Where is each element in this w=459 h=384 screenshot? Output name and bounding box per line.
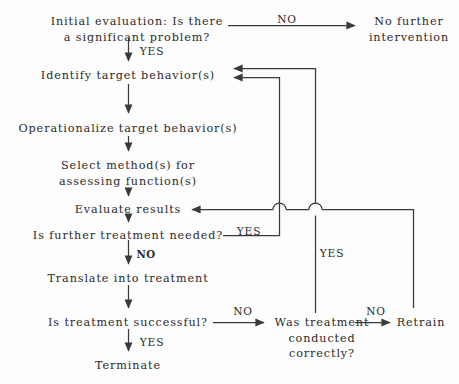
edge-label-no-initial: NO: [277, 13, 297, 26]
node-is-treatment-successful: Is treatment successful?: [48, 315, 208, 331]
node-identify-target-behaviors: Identify target behavior(s): [41, 68, 215, 84]
edge-wastreatment-yes-to-identify: [234, 69, 316, 314]
edge-label-yes-was-treatment: YES: [320, 247, 344, 260]
edge-furthertreatment-yes-to-identify: [223, 78, 280, 236]
edge-retrain-to-evaluate: [192, 210, 414, 309]
node-select-assessment-methods: Select method(s) for assessing function(…: [59, 158, 197, 189]
edge-label-no-was-treatment: NO: [366, 305, 386, 318]
flowchart-canvas: Initial evaluation: Is there a significa…: [0, 0, 459, 384]
line-hop-arc-middle: [309, 203, 322, 210]
edge-label-yes-initial: YES: [140, 45, 164, 58]
edge-label-no-successful: NO: [233, 305, 253, 318]
node-translate-into-treatment: Translate into treatment: [47, 271, 208, 287]
node-initial-evaluation: Initial evaluation: Is there a significa…: [51, 14, 224, 45]
node-operationalize-targets: Operationalize target behavior(s): [18, 121, 237, 137]
node-retrain: Retrain: [397, 315, 446, 331]
edge-label-yes-further-tx: YES: [237, 225, 261, 238]
node-is-further-treatment: Is further treatment needed?: [33, 228, 223, 244]
node-no-further-intervention: No further intervention: [369, 14, 449, 45]
edge-label-no-further-tx: NO: [136, 248, 155, 261]
node-was-treatment-correct: Was treatment conducted correctly?: [275, 315, 370, 362]
node-terminate: Terminate: [95, 358, 161, 374]
edge-label-yes-terminate: YES: [140, 336, 164, 349]
node-evaluate-results: Evaluate results: [75, 202, 181, 218]
